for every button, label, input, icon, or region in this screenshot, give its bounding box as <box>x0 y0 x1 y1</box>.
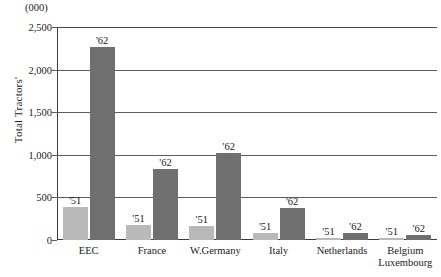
bar-value-label: '62 <box>159 157 171 168</box>
bar-group: '51'62 <box>184 27 247 240</box>
bar-value-label: '62 <box>349 221 361 232</box>
bar-group: '51'62 <box>247 27 310 240</box>
bar[interactable]: '62 <box>90 47 115 240</box>
y-tick-label: 1,000 <box>28 149 52 160</box>
bar-group: '51'62 <box>310 27 373 240</box>
x-category-label-line: W.Germany <box>190 245 241 256</box>
bar-value-label: '62 <box>223 141 235 152</box>
x-category-label-line: France <box>138 245 167 256</box>
bar-value-label: '51 <box>196 214 208 225</box>
bar[interactable]: '51 <box>379 238 404 240</box>
y-axis-title: Total Tractors' <box>12 40 24 180</box>
bar[interactable]: '62 <box>153 169 178 240</box>
x-category-label-line: Italy <box>269 245 288 256</box>
x-category-label: Netherlands <box>310 245 373 257</box>
plot-area: 05001,0001,5002,0002,500'51'62'51'62'51'… <box>57 27 437 240</box>
bar[interactable]: '62 <box>216 153 241 240</box>
bar[interactable]: '62 <box>280 208 305 240</box>
bar-value-label: '51 <box>386 226 398 237</box>
y-tick-label: 500 <box>36 192 52 203</box>
bar[interactable]: '62 <box>343 233 368 240</box>
bar-value-label: '62 <box>96 35 108 46</box>
bar-value-label: '51 <box>69 195 81 206</box>
bar[interactable]: '51 <box>63 207 88 240</box>
x-category-label-line: Belgium <box>387 245 423 256</box>
bar-chart: (000) Total Tractors' 05001,0001,5002,00… <box>0 0 441 277</box>
x-category-label-line: EEC <box>79 245 99 256</box>
bar-group: '51'62 <box>374 27 437 240</box>
bar-value-label: '51 <box>132 213 144 224</box>
bar-value-label: '62 <box>286 196 298 207</box>
x-category-label: Italy <box>247 245 310 257</box>
bar[interactable]: '51 <box>126 225 151 240</box>
x-category-label: W.Germany <box>184 245 247 257</box>
x-category-label: EEC <box>57 245 120 257</box>
y-tick-label: 0 <box>47 235 52 246</box>
bar[interactable]: '51 <box>189 226 214 240</box>
x-category-label: BelgiumLuxembourg <box>374 245 437 269</box>
y-tick-label: 1,500 <box>28 107 52 118</box>
units-caption: (000) <box>25 2 48 13</box>
bar[interactable]: '62 <box>406 235 431 240</box>
bar-value-label: '51 <box>322 226 334 237</box>
y-tick-label: 2,000 <box>28 64 52 75</box>
x-category-label: France <box>120 245 183 257</box>
bar[interactable]: '51 <box>316 238 341 240</box>
y-tick-mark <box>52 240 57 241</box>
y-tick-label: 2,500 <box>28 22 52 33</box>
x-category-label-line: Netherlands <box>317 245 368 256</box>
bar-group: '51'62 <box>120 27 183 240</box>
x-category-label-line: Luxembourg <box>374 257 437 269</box>
bar-group: '51'62 <box>57 27 120 240</box>
bar-value-label: '62 <box>413 223 425 234</box>
bar[interactable]: '51 <box>253 233 278 240</box>
bar-value-label: '51 <box>259 221 271 232</box>
